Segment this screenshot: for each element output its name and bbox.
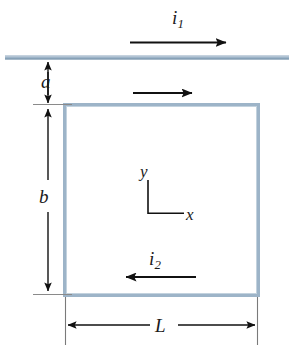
label-axis-y: y (140, 163, 148, 180)
long-straight-wire (5, 56, 289, 60)
label-current-i2-subscript: 2 (155, 257, 161, 272)
label-current-i1-subscript: 1 (178, 16, 184, 31)
diagram-canvas (0, 0, 296, 353)
rectangular-loop (65, 105, 258, 295)
label-current-i1: i1 (172, 8, 184, 31)
label-current-i2-symbol: i (149, 248, 154, 269)
label-dimension-b: b (39, 187, 49, 206)
label-current-i2: i2 (149, 249, 161, 272)
label-current-i1-symbol: i (172, 7, 177, 28)
physics-diagram-figure: i1 i2 a b L x y (0, 0, 296, 353)
label-dimension-a: a (41, 72, 51, 91)
label-dimension-L: L (155, 316, 166, 335)
dimension-a (33, 62, 72, 105)
label-axis-x: x (186, 206, 194, 223)
coordinate-axes (148, 180, 184, 214)
